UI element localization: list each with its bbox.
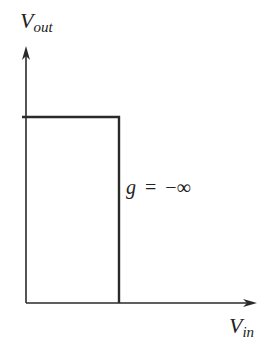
gain-value: −∞ xyxy=(165,176,191,198)
gain-variable: g xyxy=(126,176,136,198)
y-axis-label-sub: out xyxy=(33,19,52,35)
equals-sign: = xyxy=(145,176,156,198)
transfer-curve xyxy=(22,117,119,303)
y-axis-label: Vout xyxy=(20,8,53,34)
gain-annotation: g = −∞ xyxy=(126,176,191,199)
x-axis-label-main: V xyxy=(229,313,242,338)
x-axis-label: Vin xyxy=(229,313,254,339)
y-axis-label-main: V xyxy=(20,8,33,33)
x-axis-label-sub: in xyxy=(242,324,254,340)
